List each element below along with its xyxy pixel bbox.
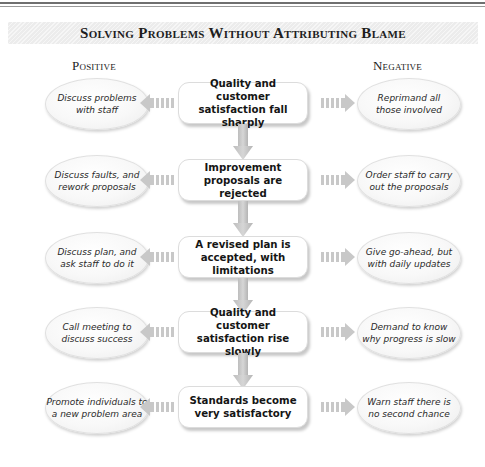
striped-arrow-left-icon (140, 171, 174, 189)
positive-response-1: Discuss problems with staff (45, 78, 149, 130)
positive-response-2: Discuss faults, and rework proposals (45, 155, 149, 207)
column-header-negative: Negative (373, 58, 422, 74)
stage-box-5: Standards become very satisfactory (178, 386, 308, 428)
positive-response-4: Call meeting to discuss success (45, 307, 149, 359)
positive-response-5: Promote individuals to a new problem are… (45, 382, 149, 434)
positive-response-text: Promote individuals to a new problem are… (46, 396, 147, 420)
negative-response-2: Order staff to carry out the proposals (357, 155, 461, 207)
striped-arrow-left-icon (140, 323, 174, 341)
striped-arrow-left-icon (140, 398, 174, 416)
striped-arrow-left-icon (140, 248, 174, 266)
striped-arrow-left-icon (140, 94, 174, 112)
striped-arrow-right-icon (321, 398, 355, 416)
stage-text: Improvement proposals are rejected (183, 161, 303, 200)
negative-response-1: Reprimand all those involved (357, 78, 461, 130)
negative-response-5: Warn staff there is no second chance (357, 382, 461, 434)
stage-text: Standards become very satisfactory (189, 394, 296, 420)
negative-response-text: Order staff to carry out the proposals (366, 169, 453, 193)
positive-response-text: Discuss problems with staff (57, 92, 136, 116)
title-band: Solving Problems Without Attributing Bla… (8, 22, 478, 44)
stage-box-3: A revised plan is accepted, with limitat… (178, 236, 308, 278)
arrow-down-icon (233, 124, 253, 160)
positive-response-text: Discuss plan, and ask staff to do it (57, 246, 136, 270)
negative-response-text: Reprimand all those involved (376, 92, 442, 116)
stage-box-2: Improvement proposals are rejected (178, 159, 308, 201)
diagram-title: Solving Problems Without Attributing Bla… (80, 25, 406, 42)
striped-arrow-right-icon (321, 94, 355, 112)
stage-text: Quality and customer satisfaction fall s… (183, 77, 303, 129)
stage-box-1: Quality and customer satisfaction fall s… (178, 82, 308, 124)
stage-text: Quality and customer satisfaction rise s… (183, 306, 303, 358)
negative-response-text: Demand to know why progress is slow (362, 321, 455, 345)
stage-text: A revised plan is accepted, with limitat… (183, 238, 303, 277)
positive-response-3: Discuss plan, and ask staff to do it (45, 232, 149, 284)
negative-response-text: Warn staff there is no second chance (367, 396, 450, 420)
striped-arrow-right-icon (321, 248, 355, 266)
arrow-down-icon (233, 353, 253, 389)
top-rule (0, 2, 485, 7)
striped-arrow-right-icon (321, 323, 355, 341)
negative-response-text: Give go-ahead, but with daily updates (366, 246, 452, 270)
arrow-down-icon (233, 201, 253, 237)
negative-response-4: Demand to know why progress is slow (357, 307, 461, 359)
stage-box-4: Quality and customer satisfaction rise s… (178, 311, 308, 353)
positive-response-text: Call meeting to discuss success (62, 321, 133, 345)
striped-arrow-right-icon (321, 171, 355, 189)
column-header-positive: Positive (72, 58, 116, 74)
negative-response-3: Give go-ahead, but with daily updates (357, 232, 461, 284)
positive-response-text: Discuss faults, and rework proposals (55, 169, 140, 193)
